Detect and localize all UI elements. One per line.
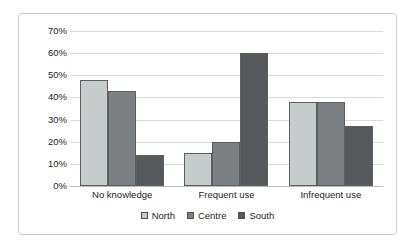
bar-south-infrequent-use[interactable] [345,126,373,186]
legend-swatch-icon [187,212,194,219]
bar-centre-frequent-use[interactable] [212,142,240,186]
chart-frame: 0%10%20%30%40%50%60%70% No knowledgeFreq… [18,13,397,235]
legend-item-south[interactable]: South [238,211,274,221]
bar-south-frequent-use[interactable] [240,53,268,186]
bar-south-no-knowledge[interactable] [136,155,164,186]
legend-label: Centre [198,211,227,221]
gridline-0% [70,186,383,187]
y-axis-tick-label: 20% [21,137,67,147]
legend-label: North [152,211,175,221]
legend-swatch-icon [141,212,148,219]
bar-north-frequent-use[interactable] [184,153,212,186]
y-axis-labels: 0%10%20%30%40%50%60%70% [19,31,67,186]
y-axis-tick-label: 50% [21,71,67,81]
bar-group [70,31,174,186]
x-axis-tick-label: No knowledge [70,190,174,200]
bar-groups [70,31,383,186]
bar-centre-infrequent-use[interactable] [317,102,345,186]
legend-swatch-icon [238,212,245,219]
legend-label: South [249,211,274,221]
y-axis-tick-label: 10% [21,159,67,169]
y-axis-tick-label: 60% [21,48,67,58]
x-axis-tick-label: Infrequent use [279,190,383,200]
bar-centre-no-knowledge[interactable] [108,91,136,186]
x-axis-labels: No knowledgeFrequent useInfrequent use [70,190,383,200]
x-axis-tick-label: Frequent use [174,190,278,200]
y-axis-tick-label: 70% [21,26,67,36]
y-axis-tick-label: 40% [21,93,67,103]
bar-north-infrequent-use[interactable] [289,102,317,186]
bar-group [174,31,278,186]
y-axis-tick-label: 0% [21,181,67,191]
bar-group [279,31,383,186]
legend-item-north[interactable]: North [141,211,175,221]
y-axis-tick-label: 30% [21,115,67,125]
plot-area [70,31,383,186]
bar-north-no-knowledge[interactable] [80,80,108,186]
chart-legend: NorthCentreSouth [19,211,396,221]
legend-item-centre[interactable]: Centre [187,211,227,221]
